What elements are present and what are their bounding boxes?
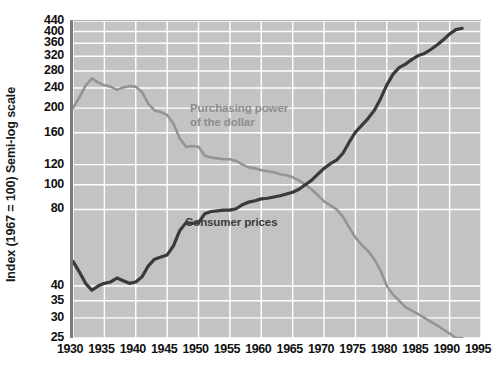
x-tick-label: 1945 (151, 342, 177, 356)
x-tick-label: 1970 (308, 342, 334, 356)
x-tick-label: 1985 (402, 342, 428, 356)
x-tick-label: 1960 (245, 342, 271, 356)
x-tick-label: 1975 (339, 342, 365, 356)
x-tick-label: 1940 (120, 342, 146, 356)
x-axis-tick-labels: 1930193519401945195019551960196519701975… (0, 0, 497, 369)
x-tick-label: 1980 (371, 342, 397, 356)
chart-figure: Index (1967 = 100) Semi-log scale 440400… (0, 0, 497, 369)
x-tick-label: 1995 (465, 342, 491, 356)
x-tick-label: 1990 (434, 342, 460, 356)
x-tick-label: 1950 (182, 342, 208, 356)
x-tick-label: 1935 (88, 342, 114, 356)
x-tick-label: 1965 (277, 342, 303, 356)
x-tick-label: 1930 (57, 342, 83, 356)
x-tick-label: 1955 (214, 342, 240, 356)
